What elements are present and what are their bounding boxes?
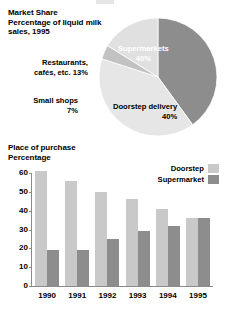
- y-tick-label: 0: [6, 282, 28, 290]
- y-tick-label: 40: [6, 207, 28, 215]
- pie-label-doorstep-delivery: Doorstep delivery 40%: [113, 102, 177, 121]
- y-tick-label: 20: [6, 244, 28, 252]
- pie-label-supermarkets: Supermarkets 40%: [118, 44, 169, 63]
- bar-supermarket-1994: [168, 226, 180, 286]
- x-axis-label-1990: 1990: [32, 291, 62, 300]
- legend-item-doorstep: Doorstep: [171, 164, 219, 173]
- pie-label-small-shops-line-2: 7%: [6, 106, 78, 116]
- pie-label-small-shops-line-1: Small shops: [6, 96, 78, 106]
- x-axis-label-1992: 1992: [92, 291, 122, 300]
- legend-label: Doorstep: [171, 164, 204, 173]
- y-tick-label: 60: [6, 169, 28, 177]
- bar-doorstep-1992: [95, 192, 107, 286]
- bar-doorstep-1994: [156, 209, 168, 286]
- pie-label-restaurants-line-2: cafés, etc. 13%: [6, 68, 88, 78]
- bar-doorstep-1995: [186, 218, 198, 286]
- figure-page: Market Share Percentage of liquid milk s…: [0, 0, 225, 319]
- y-tick-label: 10: [6, 263, 28, 271]
- bar-groups: [32, 173, 213, 286]
- bar-supermarket-1990: [47, 250, 59, 286]
- x-axis-line: [31, 286, 213, 287]
- bar-supermarket-1992: [107, 239, 119, 286]
- pie-label-small-shops: Small shops 7%: [6, 96, 78, 115]
- bar-chart-title: Place of purchase Percentage: [8, 143, 76, 162]
- bar-supermarket-1993: [138, 231, 150, 286]
- bar-doorstep-1993: [126, 199, 138, 286]
- pie-label-restaurants: Restaurants, cafés, etc. 13%: [6, 58, 88, 77]
- bar-doorstep-1991: [65, 181, 77, 286]
- bar-doorstep-1990: [35, 171, 47, 286]
- scan-artifact: [96, 0, 114, 4]
- pie-label-restaurants-line-1: Restaurants,: [6, 58, 88, 68]
- bar-group-1995: [183, 173, 213, 286]
- x-axis-label-1991: 1991: [62, 291, 92, 300]
- pie-label-doorstep-name: Doorstep delivery: [113, 102, 177, 112]
- y-tick-label: 50: [6, 188, 28, 196]
- x-axis-labels: 199019911992199319941995: [32, 291, 213, 300]
- bar-supermarket-1995: [198, 218, 210, 286]
- y-tick-label: 30: [6, 226, 28, 234]
- bar-title-line-1: Place of purchase: [8, 143, 76, 153]
- bar-group-1993: [123, 173, 153, 286]
- bar-group-1992: [92, 173, 122, 286]
- y-tick-mark: [29, 286, 32, 287]
- bar-title-line-2: Percentage: [8, 153, 76, 163]
- legend-swatch: [208, 164, 219, 173]
- pie-label-supermarkets-value: 40%: [118, 54, 169, 64]
- x-axis-label-1994: 1994: [153, 291, 183, 300]
- pie-label-supermarkets-name: Supermarkets: [118, 44, 169, 54]
- pie-label-doorstep-value: 40%: [113, 112, 177, 122]
- bar-chart-plot-area: 0102030405060: [31, 173, 213, 287]
- bar-group-1990: [32, 173, 62, 286]
- x-axis-label-1993: 1993: [123, 291, 153, 300]
- bar-group-1991: [62, 173, 92, 286]
- bar-group-1994: [153, 173, 183, 286]
- bar-supermarket-1991: [77, 250, 89, 286]
- x-axis-label-1995: 1995: [183, 291, 213, 300]
